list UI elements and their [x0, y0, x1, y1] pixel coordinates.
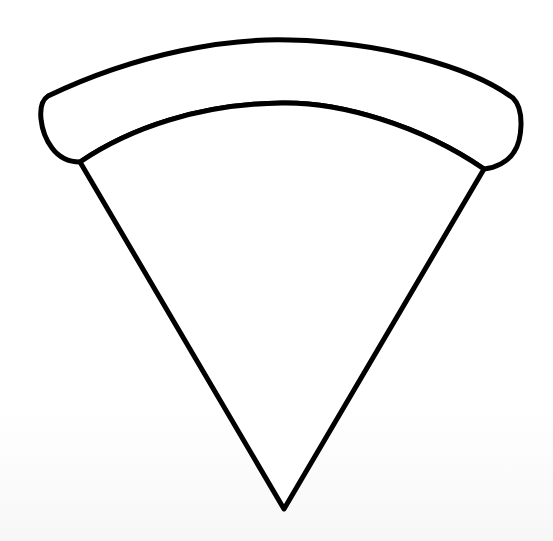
pizza-slice-illustration [0, 0, 553, 541]
pizza-slice-body [80, 103, 484, 509]
pizza-slice-icon [0, 0, 553, 541]
